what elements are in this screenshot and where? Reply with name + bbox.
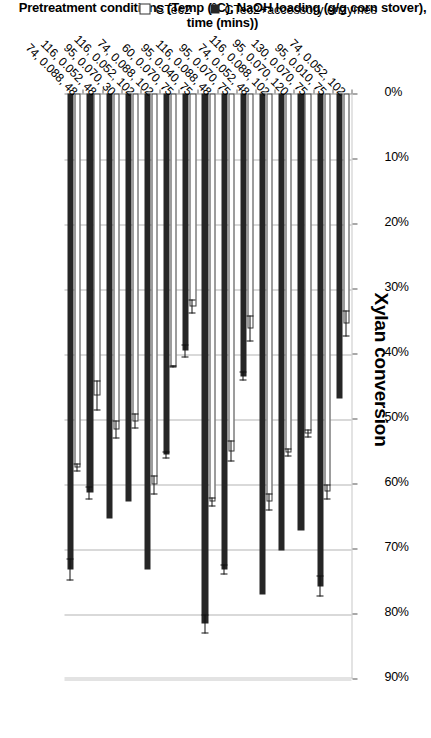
bar-open — [170, 93, 176, 366]
legend-item-ctec2-accessory: CTec2+accessory enzymes — [210, 2, 377, 17]
bar-row — [199, 93, 218, 678]
value-axis-label: 40% — [384, 344, 408, 358]
error-cap — [208, 505, 215, 506]
error-cap — [316, 575, 323, 576]
error-cap — [304, 436, 311, 437]
bar-row — [294, 93, 313, 678]
error-bar — [184, 344, 185, 357]
value-axis-tick — [352, 288, 357, 289]
error-bar — [204, 614, 205, 634]
bar-open — [343, 93, 349, 323]
error-cap — [150, 493, 157, 494]
error-bar — [69, 558, 70, 580]
error-cap — [201, 632, 208, 633]
error-cap — [66, 558, 73, 559]
error-cap — [246, 315, 253, 316]
value-axis-label: 90% — [384, 669, 408, 683]
error-bar — [76, 463, 77, 471]
error-cap — [284, 448, 291, 449]
value-axis-tick — [352, 418, 357, 419]
error-cap — [169, 365, 176, 366]
error-bar — [211, 497, 212, 506]
error-cap — [316, 595, 323, 596]
error-cap — [342, 335, 349, 336]
value-axis-tick — [352, 353, 357, 354]
error-cap — [304, 429, 311, 430]
legend-label-ctec2: CTec2 — [155, 3, 190, 17]
bar-filled — [297, 93, 303, 530]
error-bar — [88, 486, 89, 499]
bar-row — [333, 93, 352, 678]
error-cap — [131, 413, 138, 414]
error-cap — [73, 463, 80, 464]
bar-filled — [182, 93, 188, 350]
bar-row — [83, 93, 102, 678]
bar-filled — [336, 93, 342, 398]
error-cap — [169, 366, 176, 367]
error-bar — [230, 440, 231, 461]
error-cap — [284, 455, 291, 456]
bar-open — [113, 93, 119, 429]
error-bar — [165, 451, 166, 458]
value-axis-tick — [352, 613, 357, 614]
value-axis-label: 30% — [384, 279, 408, 293]
bar-filled — [201, 93, 207, 623]
gridline — [64, 679, 351, 680]
bar-open — [151, 93, 157, 484]
bar-rows — [64, 93, 352, 678]
bar-filled — [317, 93, 323, 586]
error-cap — [220, 573, 227, 574]
bar-open — [247, 93, 253, 328]
value-axis-label: 0% — [384, 84, 401, 98]
bar-open — [189, 93, 195, 306]
error-cap — [162, 457, 169, 458]
error-bar — [115, 420, 116, 438]
bar-open — [285, 93, 291, 452]
error-cap — [208, 497, 215, 498]
error-bar — [191, 299, 192, 313]
bar-row — [179, 93, 198, 678]
error-cap — [150, 475, 157, 476]
bar-row — [160, 93, 179, 678]
bar-row — [256, 93, 275, 678]
error-bar — [287, 448, 288, 456]
error-bar — [268, 493, 269, 510]
error-cap — [131, 427, 138, 428]
error-cap — [201, 614, 208, 615]
value-axis-label: 10% — [384, 149, 408, 163]
bar-filled — [125, 93, 131, 501]
error-cap — [162, 451, 169, 452]
bar-open — [324, 93, 330, 491]
error-bar — [242, 371, 243, 380]
bar-row — [103, 93, 122, 678]
value-axis-label: 70% — [384, 539, 408, 553]
bar-filled — [144, 93, 150, 569]
error-cap — [220, 564, 227, 565]
error-cap — [93, 380, 100, 381]
bar-filled — [278, 93, 284, 550]
error-bar — [326, 484, 327, 500]
category-axis-tick — [351, 89, 352, 93]
error-cap — [323, 484, 330, 485]
value-axis-tick — [352, 548, 357, 549]
error-cap — [85, 486, 92, 487]
bar-row — [141, 93, 160, 678]
value-axis-tick — [352, 158, 357, 159]
error-bar — [153, 475, 154, 495]
error-cap — [112, 437, 119, 438]
error-bar — [172, 365, 173, 368]
bar-filled — [106, 93, 112, 518]
error-cap — [112, 420, 119, 421]
error-cap — [85, 498, 92, 499]
bar-filled — [67, 93, 73, 569]
error-cap — [265, 493, 272, 494]
bar-open — [209, 93, 215, 501]
value-axis-tick — [352, 678, 357, 679]
bar-open — [266, 93, 272, 501]
error-cap — [239, 371, 246, 372]
error-bar — [307, 429, 308, 437]
bar-filled — [221, 93, 227, 569]
error-cap — [227, 440, 234, 441]
error-cap — [73, 470, 80, 471]
